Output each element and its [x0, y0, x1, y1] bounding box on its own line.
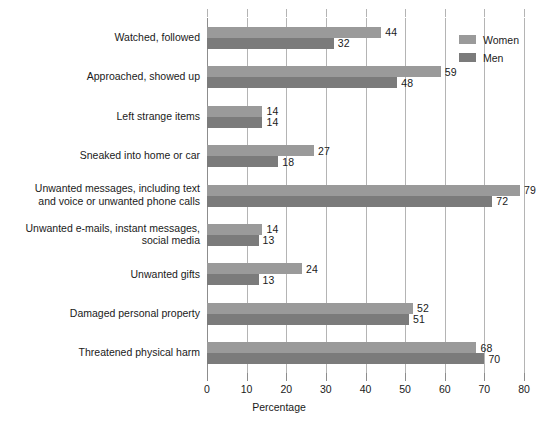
- bar-row: 27: [207, 145, 524, 156]
- tick-bottom-10: [247, 373, 248, 381]
- category-label: Left strange items: [0, 110, 200, 123]
- tick-bottom-20: [286, 373, 287, 381]
- bar-row: 14: [207, 117, 524, 128]
- category-label: Unwanted e-mails, instant messages, soci…: [0, 222, 200, 247]
- bar-women: [207, 303, 413, 314]
- bar-row: 48: [207, 77, 524, 88]
- bar-row: 70: [207, 353, 524, 364]
- bar-value-label: 68: [480, 343, 492, 354]
- bar-row: 72: [207, 196, 524, 207]
- bar-men: [207, 353, 484, 364]
- bar-group: 1414: [207, 106, 524, 128]
- tick-top-10: [247, 9, 248, 17]
- bar-value-label: 14: [266, 117, 278, 128]
- tick-top-80: [524, 9, 525, 17]
- bar-group: 7972: [207, 185, 524, 207]
- tick-top-20: [286, 9, 287, 17]
- bar-value-label: 14: [266, 224, 278, 235]
- x-tick-label-30: 30: [320, 383, 332, 395]
- tick-bottom-40: [366, 373, 367, 381]
- bar-men: [207, 77, 397, 88]
- bar-value-label: 79: [524, 185, 536, 196]
- bar-group: 1413: [207, 224, 524, 246]
- bar-women: [207, 263, 302, 274]
- bar-row: 13: [207, 274, 524, 285]
- bar-value-label: 13: [263, 275, 275, 286]
- bar-row: 51: [207, 314, 524, 325]
- tick-top-0: [207, 9, 208, 17]
- category-label: Unwanted messages, including text and vo…: [0, 182, 200, 207]
- bar-men: [207, 196, 492, 207]
- bar-group: 5948: [207, 66, 524, 88]
- x-tick-label-40: 40: [360, 383, 372, 395]
- bar-women: [207, 106, 262, 117]
- tick-top-60: [445, 9, 446, 17]
- tick-top-30: [326, 9, 327, 17]
- tick-top-40: [366, 9, 367, 17]
- bar-row: 24: [207, 263, 524, 274]
- x-tick-label-50: 50: [399, 383, 411, 395]
- legend-item-women: Women: [459, 32, 519, 47]
- bar-men: [207, 274, 259, 285]
- bar-value-label: 70: [488, 354, 500, 365]
- category-label: Sneaked into home or car: [0, 149, 200, 162]
- bar-women: [207, 185, 520, 196]
- bar-row: 52: [207, 303, 524, 314]
- tick-top-50: [405, 9, 406, 17]
- category-label: Damaged personal property: [0, 307, 200, 320]
- bar-value-label: 51: [413, 314, 425, 325]
- bar-women: [207, 224, 262, 235]
- bar-group: 6870: [207, 342, 524, 364]
- plot-area: 443259481414271879721413241352516870: [207, 18, 524, 373]
- bar-row: 14: [207, 106, 524, 117]
- chart-legend: WomenMen: [459, 32, 519, 68]
- bar-women: [207, 342, 476, 353]
- tick-top-70: [484, 9, 485, 17]
- bar-row: 13: [207, 235, 524, 246]
- legend-label-women: Women: [483, 34, 519, 46]
- tick-bottom-60: [445, 373, 446, 381]
- bar-group: 2718: [207, 145, 524, 167]
- bar-value-label: 52: [417, 303, 429, 314]
- x-tick-label-70: 70: [479, 383, 491, 395]
- category-label: Watched, followed: [0, 31, 200, 44]
- bar-value-label: 72: [496, 196, 508, 207]
- x-tick-label-10: 10: [241, 383, 253, 395]
- tick-bottom-70: [484, 373, 485, 381]
- bar-value-label: 44: [385, 27, 397, 38]
- legend-swatch-women: [459, 35, 476, 44]
- category-label: Threatened physical harm: [0, 346, 200, 359]
- bar-men: [207, 156, 278, 167]
- bar-row: 14: [207, 224, 524, 235]
- category-label: Approached, showed up: [0, 70, 200, 83]
- bar-value-label: 27: [318, 145, 330, 156]
- bar-value-label: 59: [445, 66, 457, 77]
- x-tick-label-0: 0: [204, 383, 210, 395]
- bar-chart: Watched, followedApproached, showed upLe…: [0, 0, 558, 426]
- bar-men: [207, 314, 409, 325]
- bar-men: [207, 38, 334, 49]
- bar-value-label: 13: [263, 235, 275, 246]
- bar-value-label: 14: [266, 106, 278, 117]
- bar-value-label: 48: [401, 77, 413, 88]
- legend-swatch-men: [459, 53, 476, 62]
- x-axis-title: Percentage: [0, 401, 558, 413]
- bar-row: 18: [207, 156, 524, 167]
- x-tick-label-60: 60: [439, 383, 451, 395]
- bar-women: [207, 145, 314, 156]
- bar-row: 68: [207, 342, 524, 353]
- tick-bottom-80: [524, 373, 525, 381]
- legend-item-men: Men: [459, 50, 519, 65]
- bar-men: [207, 117, 262, 128]
- bar-group: 2413: [207, 263, 524, 285]
- bar-value-label: 24: [306, 264, 318, 275]
- bar-row: 79: [207, 185, 524, 196]
- bar-value-label: 18: [282, 156, 294, 167]
- bar-women: [207, 27, 381, 38]
- bar-value-label: 32: [338, 38, 350, 49]
- tick-bottom-50: [405, 373, 406, 381]
- legend-label-men: Men: [483, 52, 503, 64]
- x-tick-label-80: 80: [518, 383, 530, 395]
- x-tick-label-20: 20: [280, 383, 292, 395]
- tick-bottom-0: [207, 373, 208, 381]
